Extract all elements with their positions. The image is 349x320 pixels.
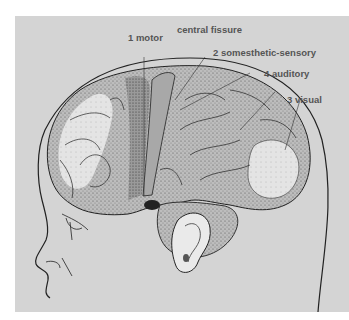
- ear: [172, 213, 211, 272]
- label-auditory: 4 auditory: [264, 68, 310, 79]
- label-visual: 3 visual: [287, 94, 322, 105]
- label-motor: 1 motor: [128, 32, 163, 43]
- label-somesthetic-sensory: 2 somesthetic-sensory: [213, 47, 317, 58]
- nostril: [46, 258, 72, 276]
- brain-illustration: 1 motor central fissure 2 somesthetic-se…: [0, 0, 349, 320]
- eye: [62, 214, 88, 240]
- occipital-highlight: [248, 140, 299, 198]
- brainstem: [144, 200, 160, 210]
- label-central-fissure: central fissure: [177, 24, 242, 35]
